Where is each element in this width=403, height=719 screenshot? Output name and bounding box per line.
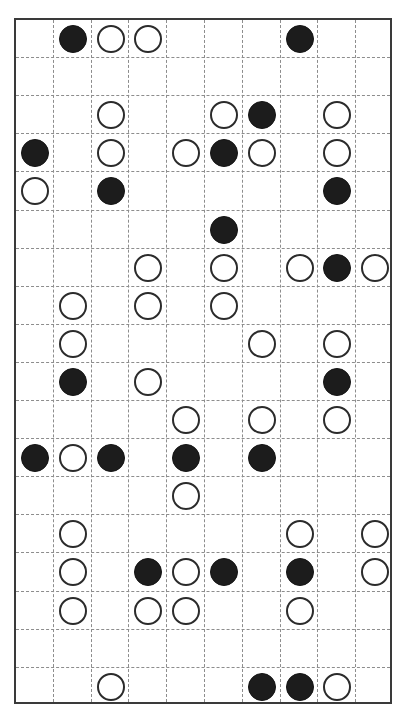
grid-line-vertical: [317, 20, 319, 702]
grid-line-horizontal: [16, 514, 390, 516]
black-stone[interactable]: [210, 139, 238, 167]
black-stone[interactable]: [134, 558, 162, 586]
white-stone[interactable]: [210, 101, 238, 129]
grid-line-horizontal: [16, 324, 390, 326]
white-stone[interactable]: [248, 139, 276, 167]
black-stone[interactable]: [286, 673, 314, 701]
white-stone[interactable]: [59, 520, 87, 548]
white-stone[interactable]: [97, 673, 125, 701]
white-stone[interactable]: [97, 25, 125, 53]
black-stone[interactable]: [248, 673, 276, 701]
grid-line-horizontal: [16, 591, 390, 593]
white-stone[interactable]: [59, 330, 87, 358]
black-stone[interactable]: [97, 444, 125, 472]
black-stone[interactable]: [210, 558, 238, 586]
black-stone[interactable]: [323, 177, 351, 205]
go-board[interactable]: [14, 18, 392, 704]
white-stone[interactable]: [286, 520, 314, 548]
black-stone[interactable]: [248, 444, 276, 472]
black-stone[interactable]: [59, 25, 87, 53]
white-stone[interactable]: [172, 139, 200, 167]
white-stone[interactable]: [134, 254, 162, 282]
black-stone[interactable]: [59, 368, 87, 396]
grid-line-vertical: [128, 20, 130, 702]
black-stone[interactable]: [172, 444, 200, 472]
white-stone[interactable]: [286, 597, 314, 625]
grid-line-horizontal: [16, 629, 390, 631]
white-stone[interactable]: [97, 139, 125, 167]
grid-line-horizontal: [16, 476, 390, 478]
white-stone[interactable]: [59, 558, 87, 586]
grid-line-horizontal: [16, 400, 390, 402]
white-stone[interactable]: [59, 444, 87, 472]
grid-line-horizontal: [16, 171, 390, 173]
white-stone[interactable]: [97, 101, 125, 129]
black-stone[interactable]: [97, 177, 125, 205]
grid-line-horizontal: [16, 667, 390, 669]
white-stone[interactable]: [172, 482, 200, 510]
white-stone[interactable]: [172, 597, 200, 625]
grid-line-horizontal: [16, 57, 390, 59]
white-stone[interactable]: [59, 597, 87, 625]
black-stone[interactable]: [21, 444, 49, 472]
white-stone[interactable]: [134, 292, 162, 320]
grid-line-horizontal: [16, 210, 390, 212]
grid-line-horizontal: [16, 95, 390, 97]
white-stone[interactable]: [172, 406, 200, 434]
grid-line-horizontal: [16, 286, 390, 288]
white-stone[interactable]: [323, 139, 351, 167]
white-stone[interactable]: [323, 101, 351, 129]
black-stone[interactable]: [286, 25, 314, 53]
white-stone[interactable]: [210, 254, 238, 282]
white-stone[interactable]: [248, 406, 276, 434]
grid-line-vertical: [355, 20, 357, 702]
white-stone[interactable]: [361, 254, 389, 282]
white-stone[interactable]: [361, 558, 389, 586]
white-stone[interactable]: [361, 520, 389, 548]
white-stone[interactable]: [59, 292, 87, 320]
white-stone[interactable]: [21, 177, 49, 205]
grid-line-vertical: [166, 20, 168, 702]
white-stone[interactable]: [323, 673, 351, 701]
grid-line-horizontal: [16, 438, 390, 440]
black-stone[interactable]: [248, 101, 276, 129]
white-stone[interactable]: [323, 406, 351, 434]
black-stone[interactable]: [286, 558, 314, 586]
grid-line-vertical: [204, 20, 206, 702]
white-stone[interactable]: [134, 368, 162, 396]
grid-line-vertical: [280, 20, 282, 702]
white-stone[interactable]: [134, 25, 162, 53]
grid-line-vertical: [53, 20, 55, 702]
black-stone[interactable]: [210, 216, 238, 244]
white-stone[interactable]: [134, 597, 162, 625]
black-stone[interactable]: [323, 254, 351, 282]
white-stone[interactable]: [286, 254, 314, 282]
black-stone[interactable]: [323, 368, 351, 396]
black-stone[interactable]: [21, 139, 49, 167]
grid-line-horizontal: [16, 362, 390, 364]
white-stone[interactable]: [172, 558, 200, 586]
white-stone[interactable]: [248, 330, 276, 358]
white-stone[interactable]: [323, 330, 351, 358]
board-diagram-canvas: [0, 0, 403, 719]
grid-line-vertical: [91, 20, 93, 702]
grid-line-horizontal: [16, 133, 390, 135]
grid-line-vertical: [242, 20, 244, 702]
grid-line-horizontal: [16, 552, 390, 554]
white-stone[interactable]: [210, 292, 238, 320]
grid-line-horizontal: [16, 248, 390, 250]
